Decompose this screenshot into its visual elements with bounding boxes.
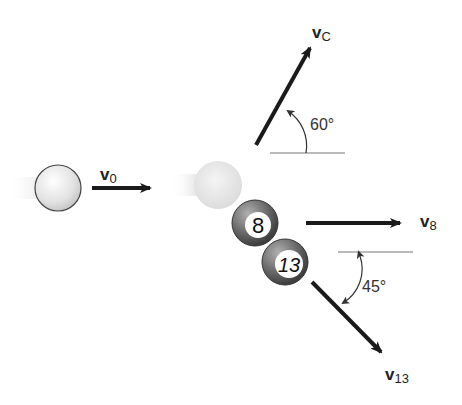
vc-label: vC (312, 23, 331, 44)
svg-text:13: 13 (278, 254, 300, 276)
vc-angle-label: 60° (310, 116, 334, 133)
cue-ball-initial (35, 165, 81, 211)
v13-label: v13 (385, 365, 409, 386)
vc-angle-arc (288, 111, 307, 153)
svg-text:8: 8 (252, 213, 264, 238)
v13-angle-arc (343, 256, 362, 303)
v8-label: v8 (420, 212, 437, 233)
ball-13: 13 (262, 239, 308, 285)
ball-8: 8 (232, 200, 278, 246)
v0-label: v0 (100, 165, 117, 186)
vc-arrow (256, 48, 310, 145)
collision-diagram: v0 8 13 vC 60° v8 45° v13 (0, 0, 462, 405)
cue-ball-impact (194, 161, 242, 209)
v13-angle-label: 45° (362, 278, 386, 295)
